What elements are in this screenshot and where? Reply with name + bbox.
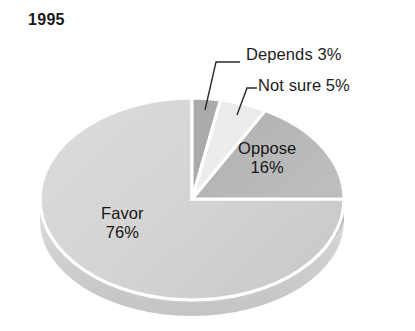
- pie-graphic: [0, 0, 415, 331]
- slice-inline-label-oppose: Oppose 16%: [238, 139, 296, 178]
- slice-callout-label-not-sure: Not sure 5%: [258, 76, 350, 95]
- slice-inline-label-oppose-value: 16%: [238, 158, 296, 177]
- pie-slices: [40, 98, 344, 300]
- slice-inline-label-favor-value: 76%: [101, 223, 144, 242]
- pie-chart-figure: 1995: [0, 0, 415, 331]
- slice-inline-label-favor-name: Favor: [101, 204, 144, 223]
- slice-inline-label-favor: Favor 76%: [101, 204, 144, 243]
- slice-inline-label-oppose-name: Oppose: [238, 139, 296, 158]
- slice-callout-label-depends: Depends 3%: [246, 45, 341, 64]
